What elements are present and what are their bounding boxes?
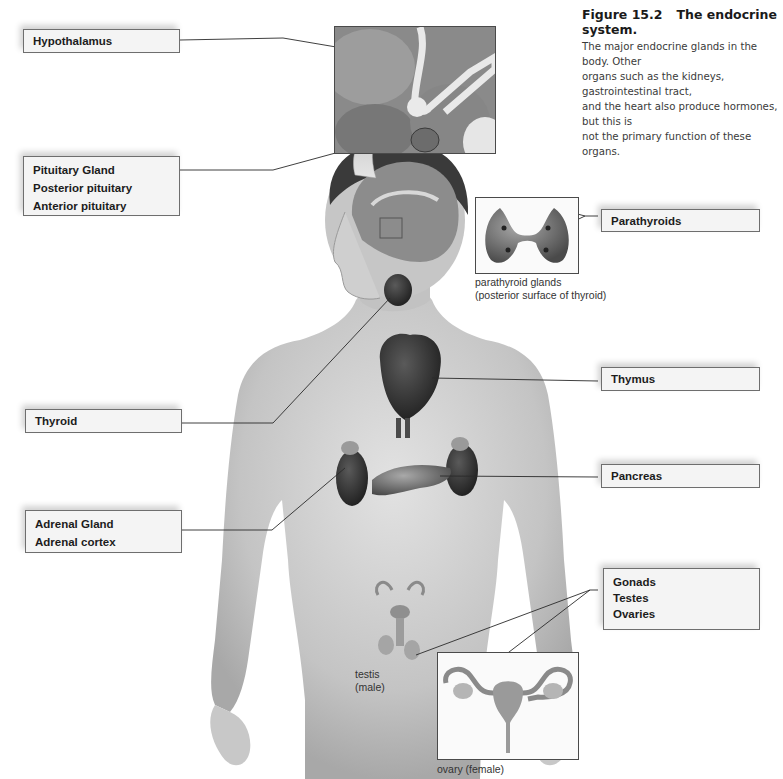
label-thyroid: Thyroid [25,409,182,433]
brain-inset [334,26,496,154]
caption-line: ovary (female) [437,763,504,776]
brain-inset-illustration [335,27,495,153]
label-gonads: Gonads Testes Ovaries [603,568,760,630]
figure-description-line: not the primary function of these organs… [582,129,782,159]
testis-caption: testis (male) [355,668,385,693]
figure-description: The major endocrine glands in the body. … [582,39,782,159]
right-kidney [446,444,478,496]
label-text: Parathyroids [611,212,681,230]
caption-line: (posterior surface of thyroid) [475,289,606,302]
label-thymus: Thymus [601,367,760,391]
label-text: Anterior pituitary [33,197,179,215]
label-text: Thyroid [35,412,77,430]
label-text: Testes [613,590,759,606]
label-text: Gonads [613,574,759,590]
figure-caption: Figure 15.2The endocrine system. The maj… [582,7,782,159]
figure-number: Figure 15.2 [582,7,663,22]
left-testis [378,635,394,655]
label-pituitary-gland: Pituitary Gland Posterior pituitary Ante… [23,156,180,216]
label-parathyroids: Parathyroids [601,209,760,232]
parathyroid-caption: parathyroid glands (posterior surface of… [475,276,606,301]
label-text: Pituitary Gland [33,161,179,179]
label-text: Adrenal Gland [35,515,181,533]
label-text: Ovaries [613,606,759,622]
label-text: Adrenal cortex [35,533,181,551]
uterus-ovary-illustration [438,653,578,759]
parathyroid-inset [475,197,579,274]
caption-line: parathyroid glands [475,276,606,289]
label-text: Thymus [611,370,655,388]
label-text: Pancreas [611,467,662,485]
label-pancreas: Pancreas [601,464,760,488]
right-testis [404,640,420,660]
left-kidney [336,450,368,506]
label-text: Hypothalamus [33,32,112,50]
label-adrenal-gland: Adrenal Gland Adrenal cortex [25,510,182,553]
figure-description-line: The major endocrine glands in the body. … [582,39,782,69]
thyroid-organ [384,274,412,306]
figure-heading: Figure 15.2The endocrine system. [582,7,782,37]
ovary-inset [437,652,579,760]
figure-description-line: organs such as the kidneys, gastrointest… [582,69,782,99]
label-text: Posterior pituitary [33,179,179,197]
figure-description-line: and the heart also produce hormones, but… [582,99,782,129]
ovary-caption: ovary (female) [437,763,504,776]
caption-line: testis [355,668,385,681]
caption-line: (male) [355,681,385,694]
thyroid-posterior-illustration [476,198,578,273]
label-hypothalamus: Hypothalamus [23,29,180,53]
